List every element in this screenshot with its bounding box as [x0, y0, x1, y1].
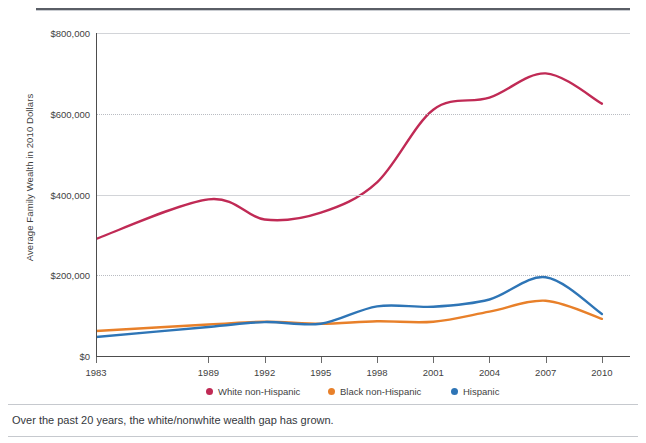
x-tick-mark — [377, 357, 378, 363]
legend-item-black-non-hispanic[interactable]: Black non-Hispanic — [328, 386, 421, 397]
x-tick-mark — [208, 357, 209, 363]
caption-rule-top — [8, 404, 638, 405]
caption-zone: Over the past 20 years, the white/nonwhi… — [0, 404, 646, 443]
x-tick-mark — [489, 357, 490, 363]
y-axis-line — [96, 33, 97, 356]
gridline-y-200000 — [96, 275, 630, 277]
x-tick-mark — [433, 357, 434, 363]
x-tick-label: 2004 — [479, 367, 500, 378]
x-tick-mark — [602, 357, 603, 363]
x-tick-label: 1998 — [366, 367, 387, 378]
x-tick-label: 2001 — [423, 367, 444, 378]
x-axis-tick-labels: 198319891992199519982001200420072010 — [96, 367, 630, 381]
gridline-y-400000 — [96, 195, 630, 197]
series-line-white-non-hispanic — [96, 73, 602, 239]
legend-marker-icon — [206, 388, 213, 395]
legend-item-white-non-hispanic[interactable]: White non-Hispanic — [206, 386, 300, 397]
x-axis-tick-marks — [96, 357, 630, 365]
caption-text: Over the past 20 years, the white/nonwhi… — [12, 414, 334, 426]
gridline-y-600000 — [96, 114, 630, 116]
chart-legend: White non-HispanicBlack non-HispanicHisp… — [96, 386, 630, 402]
x-tick-mark — [96, 357, 97, 363]
y-tick-label: $400,000 — [4, 189, 90, 200]
header-rule-shadow — [36, 10, 630, 11]
legend-marker-icon — [328, 388, 335, 395]
y-tick-label: $800,000 — [4, 28, 90, 39]
x-tick-label: 1989 — [198, 367, 219, 378]
plot-area — [96, 33, 630, 356]
x-tick-mark — [321, 357, 322, 363]
gridline-y-800000 — [96, 33, 630, 35]
legend-label: Hispanic — [463, 386, 499, 397]
y-tick-label: $0 — [4, 351, 90, 362]
x-tick-label: 2007 — [535, 367, 556, 378]
y-axis-tick-labels: $0$200,000$400,000$600,000$800,000 — [0, 33, 90, 356]
x-tick-label: 1995 — [310, 367, 331, 378]
series-line-hispanic — [96, 277, 602, 337]
legend-label: Black non-Hispanic — [340, 386, 421, 397]
x-tick-label: 2010 — [591, 367, 612, 378]
x-tick-mark — [265, 357, 266, 363]
chart-figure: Average Family Wealth in 2010 Dollars $0… — [0, 12, 646, 404]
legend-item-hispanic[interactable]: Hispanic — [451, 386, 499, 397]
x-tick-label: 1992 — [254, 367, 275, 378]
caption-rule-bottom — [8, 436, 638, 437]
y-tick-label: $600,000 — [4, 108, 90, 119]
y-tick-label: $200,000 — [4, 270, 90, 281]
legend-label: White non-Hispanic — [218, 386, 300, 397]
x-tick-label: 1983 — [85, 367, 106, 378]
x-tick-mark — [546, 357, 547, 363]
legend-marker-icon — [451, 388, 458, 395]
